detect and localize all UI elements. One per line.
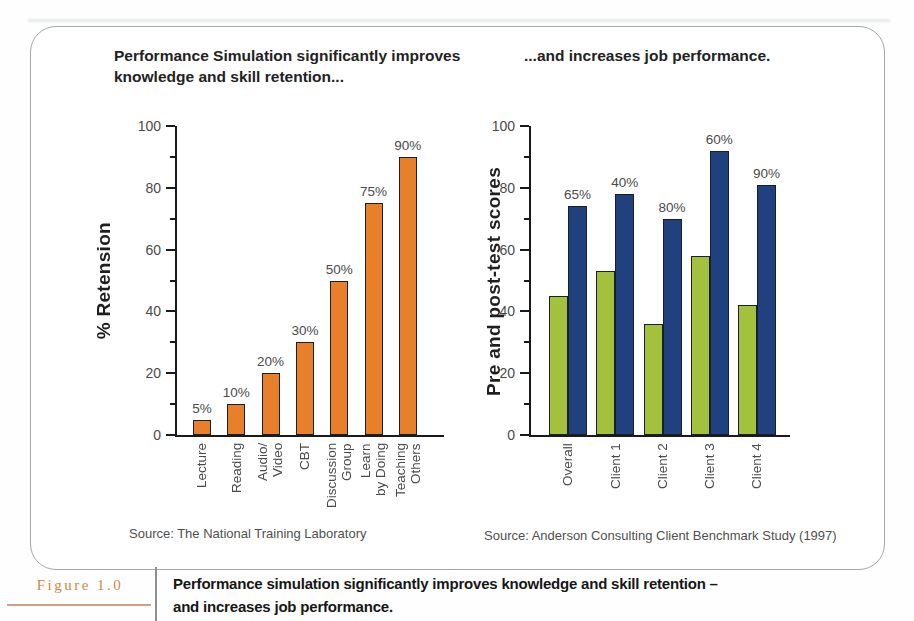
- y-major-tick: [520, 310, 529, 312]
- bar-values: [227, 404, 245, 435]
- x-axis: [529, 435, 790, 437]
- category-label: Client 4: [749, 443, 764, 539]
- category-label: Client 1: [608, 443, 623, 539]
- scanned-figure-page: Performance Simulation significantly imp…: [0, 0, 914, 621]
- y-major-tick: [166, 310, 175, 312]
- y-major-tick: [520, 249, 529, 251]
- y-axis-label-wrap: Pre and post-test scores: [472, 126, 516, 436]
- bar-values: [193, 420, 211, 435]
- bar-post-test: [757, 185, 776, 435]
- bar-pre-test: [549, 296, 568, 435]
- bar-post-test: [568, 206, 587, 435]
- bar-value-label: 20%: [248, 354, 294, 369]
- chart-title-left: Performance Simulation significantly imp…: [114, 45, 494, 88]
- source-left: Source: The National Training Laboratory: [129, 526, 367, 541]
- y-tick-label: 40: [121, 302, 161, 320]
- y-major-tick: [520, 434, 529, 436]
- figure-label-rule: [7, 604, 151, 606]
- chart-title-right: ...and increases job performance.: [524, 45, 864, 66]
- bar-value-label: 80%: [649, 200, 695, 215]
- y-major-tick: [166, 249, 175, 251]
- y-major-tick: [520, 125, 529, 127]
- figure-caption: Performance simulation significantly imp…: [173, 572, 853, 619]
- bar-value-label: 75%: [351, 184, 397, 199]
- bar-value-label: 10%: [213, 385, 259, 400]
- y-axis: [175, 126, 177, 437]
- bar-values: [399, 157, 417, 435]
- x-axis: [175, 435, 444, 437]
- y-major-tick: [166, 125, 175, 127]
- category-label: Client 2: [655, 443, 670, 539]
- bar-value-label: 90%: [744, 166, 790, 181]
- bar-post-test: [615, 194, 634, 435]
- y-axis-label-wrap: % Retension: [82, 126, 126, 436]
- y-tick-label: 0: [121, 426, 161, 444]
- y-major-tick: [166, 187, 175, 189]
- bar-value-label: 5%: [179, 401, 225, 416]
- bar-values: [262, 373, 280, 435]
- bar-post-test: [710, 151, 729, 435]
- caption-divider: [155, 567, 157, 621]
- bar-values: [330, 281, 348, 436]
- bar-post-test: [663, 219, 682, 435]
- bar-values: [365, 203, 383, 435]
- category-label: Client 3: [702, 443, 717, 539]
- y-major-tick: [166, 434, 175, 436]
- y-minor-tick: [524, 218, 529, 220]
- y-tick-label: 20: [121, 364, 161, 382]
- category-label-wrap: Client 4: [717, 443, 797, 539]
- y-axis: [529, 126, 531, 437]
- y-minor-tick: [524, 156, 529, 158]
- bar-values: [296, 342, 314, 435]
- y-minor-tick: [524, 341, 529, 343]
- bar-pre-test: [691, 256, 710, 435]
- y-major-tick: [166, 372, 175, 374]
- y-minor-tick: [524, 403, 529, 405]
- category-label: Teaching Others: [393, 443, 423, 539]
- y-tick-label: 60: [121, 241, 161, 259]
- bar-value-label: 30%: [282, 323, 328, 338]
- y-major-tick: [520, 187, 529, 189]
- figure-label: Figure 1.0: [14, 577, 146, 594]
- y-tick-label: 100: [121, 117, 161, 135]
- y-minor-tick: [170, 280, 175, 282]
- y-major-tick: [520, 372, 529, 374]
- bar-value-label: 50%: [316, 262, 362, 277]
- source-right: Source: Anderson Consulting Client Bench…: [484, 528, 837, 543]
- y-minor-tick: [170, 403, 175, 405]
- bar-pre-test: [738, 305, 757, 435]
- bar-value-label: 65%: [555, 187, 601, 202]
- bar-pre-test: [596, 271, 615, 435]
- y-tick-label: 80: [121, 179, 161, 197]
- y-minor-tick: [524, 280, 529, 282]
- scan-artifact-line: [28, 19, 890, 22]
- y-minor-tick: [170, 218, 175, 220]
- bar-value-label: 90%: [385, 138, 431, 153]
- bar-pre-test: [644, 324, 663, 435]
- y-minor-tick: [170, 341, 175, 343]
- bar-value-label: 60%: [696, 132, 742, 147]
- bar-value-label: 40%: [602, 175, 648, 190]
- category-label-wrap: Teaching Others: [368, 443, 448, 539]
- y-axis-label: % Retension: [93, 222, 115, 339]
- y-minor-tick: [170, 156, 175, 158]
- category-label: Overall: [560, 443, 575, 539]
- y-axis-label: Pre and post-test scores: [483, 167, 505, 396]
